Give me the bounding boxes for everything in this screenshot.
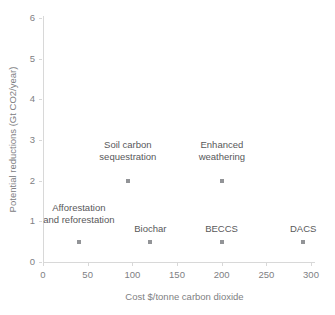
x-tick-mark bbox=[88, 263, 89, 266]
data-point-label-line: Enhanced bbox=[199, 139, 245, 151]
data-point-label-line: Soil carbon bbox=[99, 139, 156, 151]
data-point-marker bbox=[148, 240, 152, 244]
y-tick-mark bbox=[39, 59, 42, 60]
y-tick-mark bbox=[39, 99, 42, 100]
y-tick-mark bbox=[39, 262, 42, 263]
scatter-chart-figure: 050100150200250300 0123456 Afforestation… bbox=[0, 0, 335, 315]
x-tick-mark bbox=[177, 263, 178, 266]
data-point-label: Biochar bbox=[134, 223, 166, 235]
y-tick-mark bbox=[39, 221, 42, 222]
data-point-label: BECCS bbox=[205, 223, 238, 235]
data-point-label: Enhancedweathering bbox=[199, 139, 245, 162]
y-tick-mark bbox=[39, 18, 42, 19]
x-tick-label: 100 bbox=[112, 269, 152, 280]
x-tick-mark bbox=[132, 263, 133, 266]
data-point-label-line: weathering bbox=[199, 151, 245, 163]
data-point-label-line: Afforestation bbox=[43, 202, 114, 214]
x-tick-mark bbox=[43, 263, 44, 266]
y-axis-title: Potential reductions (Gt CO2/year) bbox=[7, 17, 21, 262]
x-axis-title: Cost $/tonne carbon dioxide bbox=[0, 291, 335, 302]
data-point-marker bbox=[126, 179, 130, 183]
data-point-label-line: and reforestation bbox=[43, 214, 114, 226]
x-tick-label: 150 bbox=[157, 269, 197, 280]
x-tick-mark bbox=[311, 263, 312, 266]
x-tick-label: 250 bbox=[246, 269, 286, 280]
x-tick-mark bbox=[222, 263, 223, 266]
x-axis-line bbox=[43, 262, 315, 263]
data-point-marker bbox=[77, 240, 81, 244]
data-point-marker bbox=[220, 240, 224, 244]
y-tick-mark bbox=[39, 140, 42, 141]
x-tick-label: 200 bbox=[202, 269, 242, 280]
data-point-label-line: BECCS bbox=[205, 223, 238, 235]
data-point-label-line: DACS bbox=[290, 223, 316, 235]
x-tick-label: 50 bbox=[68, 269, 108, 280]
x-tick-mark bbox=[266, 263, 267, 266]
data-point-marker bbox=[301, 240, 305, 244]
data-point-label-line: Biochar bbox=[134, 223, 166, 235]
data-point-label: Afforestationand reforestation bbox=[43, 202, 114, 225]
data-point-marker bbox=[220, 179, 224, 183]
data-point-label: DACS bbox=[290, 223, 316, 235]
y-tick-mark bbox=[39, 181, 42, 182]
y-axis-line bbox=[43, 16, 44, 263]
data-point-label-line: sequestration bbox=[99, 151, 156, 163]
data-point-label: Soil carbonsequestration bbox=[99, 139, 156, 162]
x-tick-label: 300 bbox=[291, 269, 331, 280]
x-tick-label: 0 bbox=[23, 269, 63, 280]
